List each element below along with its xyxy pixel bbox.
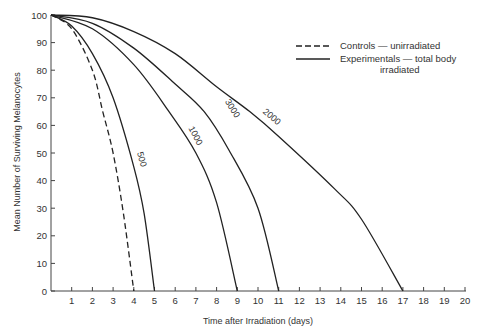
- series-3000-line: [51, 15, 279, 291]
- x-tick-label: 10: [253, 295, 264, 306]
- y-tick-label: 30: [36, 203, 47, 214]
- curve-labels: 500100030002000: [135, 97, 283, 168]
- x-tick-label: 5: [152, 295, 157, 306]
- x-tick-label: 8: [214, 295, 219, 306]
- x-tick-label: 12: [294, 295, 305, 306]
- x-tick-label: 2: [90, 295, 95, 306]
- x-ticks: 1234567891011121314151617181920: [69, 287, 470, 306]
- x-tick-label: 1: [69, 295, 74, 306]
- x-tick-label: 16: [377, 295, 388, 306]
- x-tick-label: 9: [235, 295, 240, 306]
- y-axis-title: Mean Number of Surviving Melanocytes: [12, 72, 22, 232]
- y-tick-label: 10: [36, 258, 47, 269]
- x-tick-label: 7: [193, 295, 198, 306]
- x-axis-title: Time after Irradiation (days): [203, 316, 313, 326]
- y-tick-label: 50: [36, 148, 47, 159]
- x-tick-label: 19: [439, 295, 450, 306]
- curve-label-3000: 3000: [223, 97, 242, 119]
- y-tick-label: 20: [36, 230, 47, 241]
- y-tick-label: 60: [36, 120, 47, 131]
- curve-label-1000: 1000: [187, 124, 205, 146]
- legend-label-controls: Controls — unirradiated: [340, 40, 440, 51]
- x-tick-label: 15: [356, 295, 367, 306]
- x-tick-label: 11: [274, 295, 284, 306]
- x-tick-label: 18: [418, 295, 429, 306]
- y-tick-label: 70: [36, 92, 47, 103]
- curve-label-500: 500: [135, 151, 149, 168]
- y-tick-label: 100: [31, 10, 47, 21]
- y-tick-label: 90: [36, 37, 47, 48]
- y-tick-label: 40: [36, 175, 47, 186]
- legend-label-experimentals: Experimentals — total body irradiated: [340, 53, 459, 75]
- series-controls-line: [51, 15, 134, 291]
- chart: 1234567891011121314151617181920 01020304…: [0, 0, 481, 330]
- x-tick-label: 3: [110, 295, 115, 306]
- x-tick-label: 17: [398, 295, 409, 306]
- x-tick-label: 4: [131, 295, 136, 306]
- x-tick-label: 14: [336, 295, 347, 306]
- x-tick-label: 13: [315, 295, 326, 306]
- legend: Controls — unirradiated Experimentals — …: [296, 40, 459, 75]
- y-tick-label: 0: [42, 286, 47, 297]
- x-tick-label: 20: [460, 295, 471, 306]
- x-tick-label: 6: [173, 295, 178, 306]
- y-tick-label: 80: [36, 65, 47, 76]
